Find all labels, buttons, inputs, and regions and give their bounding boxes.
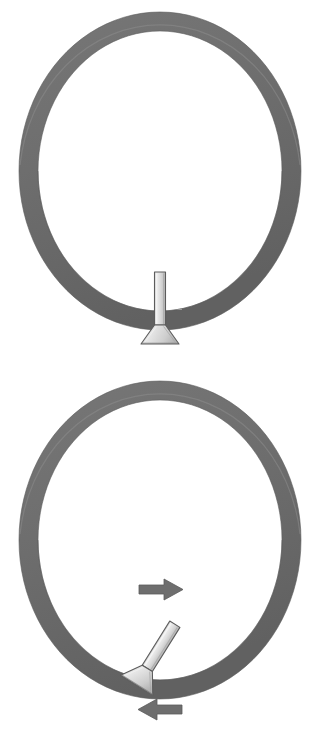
arrow-left-icon [138, 699, 182, 720]
diagram-top [0, 0, 320, 376]
figure-root [0, 0, 320, 752]
chisel-tool [141, 272, 179, 344]
panel-angled-tool-position [0, 376, 320, 752]
arrow-left-shape [138, 699, 182, 720]
arrow-right-icon [139, 579, 183, 600]
ring-highlight [20, 394, 300, 534]
ring-highlight [20, 25, 300, 165]
tool-shaft [142, 621, 180, 671]
diagram-bottom [0, 376, 320, 752]
panel-radial-tool-position [0, 0, 320, 376]
arrow-right-shape [139, 579, 183, 600]
